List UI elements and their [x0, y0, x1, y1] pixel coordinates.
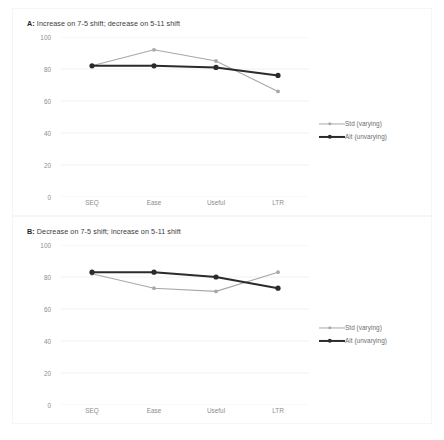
- chart-a-title: A: Increase on 7-5 shift; decrease on 5-…: [27, 19, 180, 28]
- series-line-alt: [92, 66, 278, 76]
- data-point-alt: [275, 286, 280, 291]
- x-axis-tick-label: LTR: [272, 199, 284, 206]
- y-axis-tick-label: 80: [44, 274, 51, 281]
- chart-b-y-axis: 020406080100: [13, 245, 59, 405]
- legend-label-std: Std (varying): [345, 120, 382, 127]
- data-point-std: [152, 48, 156, 52]
- y-axis-tick-label: 20: [44, 370, 51, 377]
- data-point-std: [214, 59, 218, 63]
- chart-a-svg: [61, 37, 309, 197]
- y-axis-tick-label: 60: [44, 98, 51, 105]
- data-point-alt: [275, 73, 280, 78]
- data-point-alt: [89, 63, 94, 68]
- y-axis-tick-label: 60: [44, 306, 51, 313]
- legend-item-alt: Alt (unvarying): [319, 334, 423, 347]
- y-axis-tick-label: 80: [44, 66, 51, 73]
- x-axis-tick-label: Useful: [207, 199, 225, 206]
- series-line-std: [92, 50, 278, 92]
- legend-line-alt-icon: [319, 336, 345, 346]
- chart-b-plot-area: [61, 245, 309, 405]
- chart-b-title-text: Decrease on 7-5 shift; increase on 5-11 …: [35, 227, 181, 236]
- y-axis-tick-label: 0: [47, 194, 51, 201]
- legend-item-std: Std (varying): [319, 321, 423, 334]
- legend-line-std-icon: [319, 323, 345, 333]
- data-point-alt: [151, 270, 156, 275]
- legend-label-alt: Alt (unvarying): [345, 337, 387, 344]
- chart-b-x-axis: SEQEaseUsefulLTR: [61, 407, 309, 421]
- legend-line-std-icon: [319, 119, 345, 129]
- x-axis-tick-label: SEQ: [85, 407, 99, 414]
- chart-a-plot-area: [61, 37, 309, 197]
- chart-a-title-letter: A:: [27, 19, 35, 28]
- x-axis-tick-label: LTR: [272, 407, 284, 414]
- y-axis-tick-label: 100: [40, 242, 51, 249]
- chart-panel-b: B: Decrease on 7-5 shift; increase on 5-…: [12, 216, 432, 424]
- y-axis-tick-label: 100: [40, 34, 51, 41]
- chart-b-legend: Std (varying) Alt (unvarying): [319, 321, 423, 347]
- data-point-std: [276, 270, 280, 274]
- data-point-alt: [213, 65, 218, 70]
- x-axis-tick-label: SEQ: [85, 199, 99, 206]
- chart-a-legend: Std (varying) Alt (unvarying): [319, 117, 423, 143]
- chart-b-title-letter: B:: [27, 227, 35, 236]
- y-axis-tick-label: 40: [44, 130, 51, 137]
- chart-a-y-axis: 020406080100: [13, 37, 59, 197]
- chart-b-svg: [61, 245, 309, 405]
- x-axis-tick-label: Useful: [207, 407, 225, 414]
- legend-label-alt: Alt (unvarying): [345, 133, 387, 140]
- data-point-alt: [89, 270, 94, 275]
- legend-line-alt-icon: [319, 132, 345, 142]
- y-axis-tick-label: 20: [44, 162, 51, 169]
- legend-item-alt: Alt (unvarying): [319, 130, 423, 143]
- y-axis-tick-label: 0: [47, 402, 51, 409]
- legend-label-std: Std (varying): [345, 324, 382, 331]
- figure-container: A: Increase on 7-5 shift; decrease on 5-…: [0, 0, 444, 440]
- data-point-std: [276, 90, 280, 94]
- legend-item-std: Std (varying): [319, 117, 423, 130]
- x-axis-tick-label: Ease: [147, 407, 162, 414]
- chart-panel-a: A: Increase on 7-5 shift; decrease on 5-…: [12, 8, 432, 216]
- data-point-alt: [213, 274, 218, 279]
- y-axis-tick-label: 40: [44, 338, 51, 345]
- data-point-std: [152, 286, 156, 290]
- chart-b-title: B: Decrease on 7-5 shift; increase on 5-…: [27, 227, 181, 236]
- chart-a-x-axis: SEQEaseUsefulLTR: [61, 199, 309, 213]
- data-point-std: [214, 290, 218, 294]
- chart-a-title-text: Increase on 7-5 shift; decrease on 5-11 …: [35, 19, 180, 28]
- data-point-alt: [151, 63, 156, 68]
- x-axis-tick-label: Ease: [147, 199, 162, 206]
